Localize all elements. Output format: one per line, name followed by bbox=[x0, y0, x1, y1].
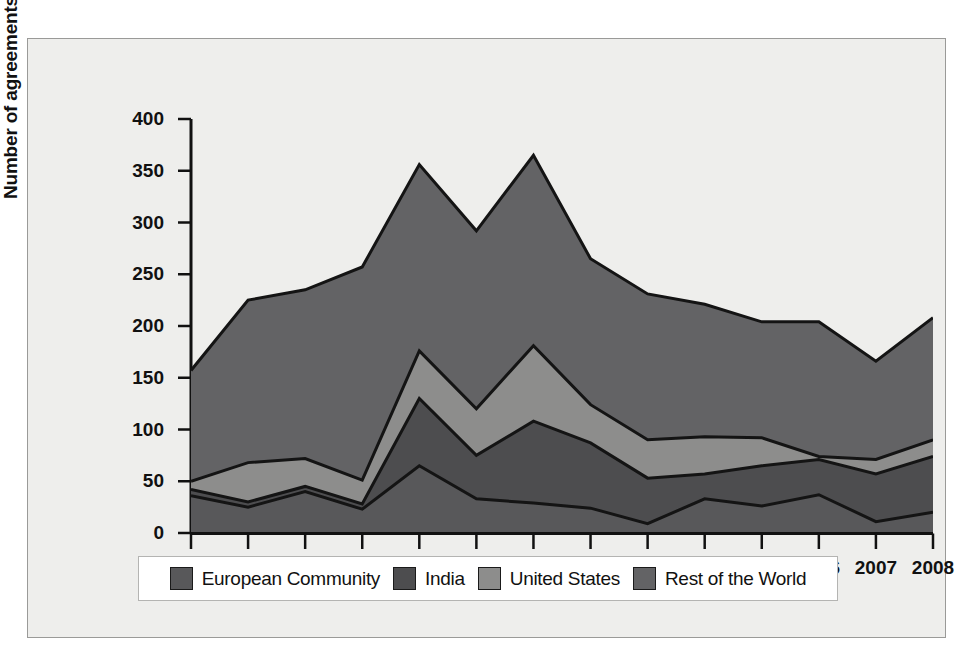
x-axis-tick-label: 2008 bbox=[902, 558, 964, 577]
chart-screenshot: Number of agreements 4003503002502001501… bbox=[0, 0, 975, 669]
figure-panel: Number of agreements 4003503002502001501… bbox=[27, 38, 946, 638]
legend-swatch-icon bbox=[170, 567, 193, 590]
x-axis-line bbox=[188, 532, 940, 556]
legend-swatch-icon bbox=[478, 567, 501, 590]
chart-legend: European CommunityIndiaUnited StatesRest… bbox=[138, 556, 838, 601]
legend-label: Rest of the World bbox=[665, 568, 806, 590]
legend-entry: United States bbox=[478, 567, 620, 590]
y-axis-title: Number of agreements bbox=[0, 0, 22, 199]
legend-label: India bbox=[425, 568, 465, 590]
legend-entry: India bbox=[393, 567, 465, 590]
legend-swatch-icon bbox=[393, 567, 416, 590]
x-axis-tick-label: 2007 bbox=[845, 558, 907, 577]
legend-label: European Community bbox=[202, 568, 380, 590]
legend-swatch-icon bbox=[633, 567, 656, 590]
legend-entry: European Community bbox=[170, 567, 380, 590]
legend-entry: Rest of the World bbox=[633, 567, 806, 590]
legend-label: United States bbox=[510, 568, 620, 590]
